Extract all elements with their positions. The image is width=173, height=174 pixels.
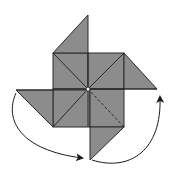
pinwheel-diagram: Origami pinwheel folding step — [0, 0, 173, 174]
flap-left — [16, 90, 53, 127]
pinwheel-svg — [0, 0, 173, 174]
flap-top — [53, 15, 88, 53]
flap-right — [124, 53, 157, 89]
flap-bottom — [90, 127, 124, 160]
center-point — [87, 88, 90, 91]
